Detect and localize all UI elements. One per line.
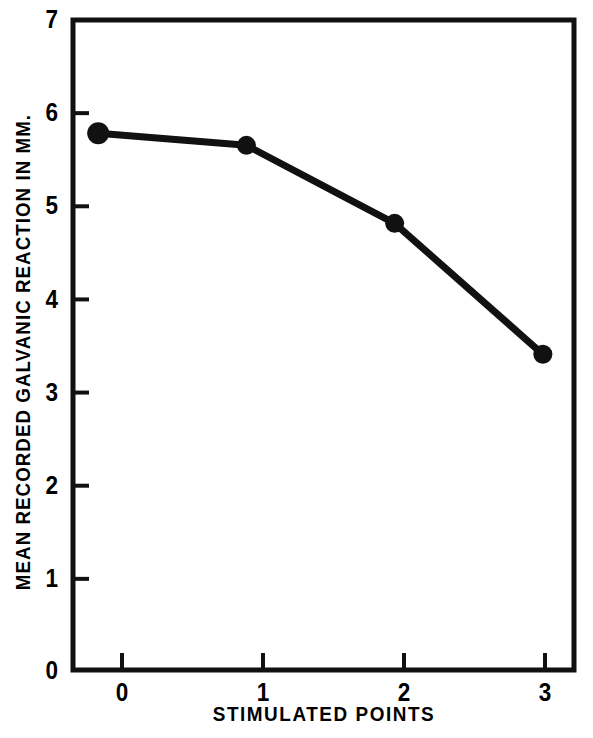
x-tick-label-2: 2 (386, 680, 422, 705)
data-point-0 (87, 122, 109, 144)
y-tick-label-2: 2 (27, 473, 58, 498)
y-tick-label-3: 3 (27, 380, 58, 405)
y-tick-label-1: 1 (27, 566, 58, 591)
chart-figure: MEAN RECORDED GALVANIC REACTION IN MM. (0, 0, 593, 738)
axis-frame (73, 20, 574, 670)
y-tick-label-7: 7 (27, 7, 58, 32)
y-tick-label-6: 6 (27, 100, 58, 125)
y-tick-label-0: 0 (27, 658, 58, 683)
x-axis-ticks (122, 653, 545, 670)
y-tick-label-4: 4 (27, 287, 58, 312)
data-point-1 (237, 136, 256, 155)
data-series-line (98, 133, 543, 354)
y-tick-label-5: 5 (27, 193, 58, 218)
x-tick-label-0: 0 (104, 680, 140, 705)
plot-area (0, 0, 593, 738)
data-point-3 (533, 345, 552, 364)
x-tick-label-1: 1 (245, 680, 281, 705)
data-point-2 (385, 214, 404, 233)
x-tick-label-3: 3 (527, 680, 563, 705)
x-axis-title: STIMULATED POINTS (81, 703, 568, 726)
data-point-markers (87, 122, 552, 364)
